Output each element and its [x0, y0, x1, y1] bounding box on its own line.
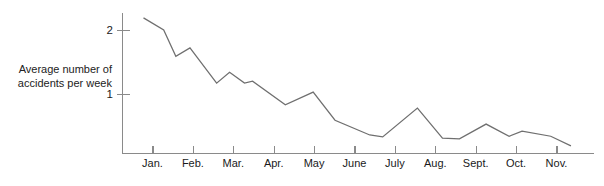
y-tick-label: 2: [107, 24, 113, 36]
y-tick-group: 12: [107, 24, 130, 100]
axes-group: [122, 13, 594, 154]
chart-plot-area: 12 Jan.Feb.Mar.Apr.MayJuneJulyAug.Sept.O…: [0, 0, 604, 186]
data-series-group: [144, 18, 571, 146]
x-tick-label: Sept.: [463, 157, 489, 169]
x-tick-label: Nov.: [546, 157, 568, 169]
y-tick-label: 1: [107, 88, 113, 100]
line-chart-figure: Average number ofaccidents per week 12 J…: [0, 0, 604, 186]
x-tick-label: Apr.: [264, 157, 284, 169]
x-tick-label: Oct.: [506, 157, 526, 169]
x-tick-label: Mar.: [223, 157, 244, 169]
x-tick-label: May: [304, 157, 325, 169]
x-tick-label: Aug.: [424, 157, 447, 169]
x-tick-group: Jan.Feb.Mar.Apr.MayJuneJulyAug.Sept.Oct.…: [142, 146, 567, 169]
data-line-series: [144, 18, 571, 146]
x-tick-label: Jan.: [142, 157, 163, 169]
x-tick-label: July: [385, 157, 405, 169]
x-tick-label: Feb.: [182, 157, 204, 169]
x-tick-label: June: [343, 157, 367, 169]
